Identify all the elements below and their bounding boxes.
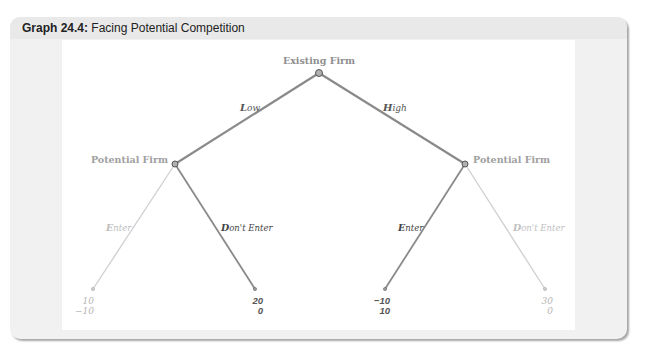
payoff-3-potential: 10: [379, 305, 390, 316]
right-decision-node: [462, 161, 468, 167]
low-label: Low: [239, 102, 260, 113]
right-enter-label: Enter: [397, 222, 424, 233]
payoff-4-existing: 30: [542, 296, 554, 306]
payoff-1-existing: 10: [83, 296, 95, 306]
payoff-4-potential: 0: [547, 306, 553, 316]
leaf-node-3: [383, 287, 386, 290]
left-decision-node: [172, 161, 178, 167]
plot-area: [62, 40, 575, 330]
high-label: High: [382, 102, 407, 113]
left-enter-label: Enter: [105, 222, 132, 233]
root-label: Existing Firm: [283, 55, 355, 66]
root-node: [316, 70, 323, 77]
payoff-2-potential: 0: [258, 305, 264, 316]
leaf-node-2: [253, 287, 256, 290]
payoff-1-potential: −10: [75, 306, 94, 316]
leaf-node-1: [91, 287, 94, 290]
left-node-label: Potential Firm: [91, 154, 168, 165]
right-dont-enter-label: Don't Enter: [512, 222, 565, 233]
left-dont-enter-label: Don't Enter: [220, 222, 273, 233]
right-node-label: Potential Firm: [473, 154, 550, 165]
game-tree: Existing Firm Potential Firm Potential F…: [0, 0, 647, 343]
leaf-node-4: [543, 287, 546, 290]
